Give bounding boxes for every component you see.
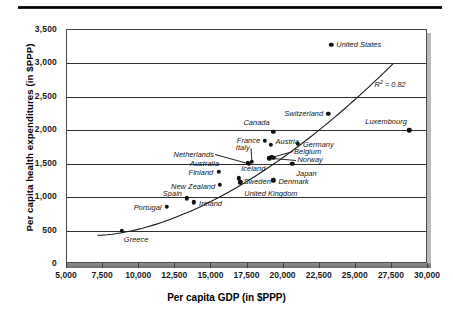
plot-area: GreecePortugalSpainIrelandFinlandNew Zea… [66,29,427,263]
data-point-label: Ireland [199,199,222,208]
data-point-label: Norway [297,155,322,164]
data-point-label: Netherlands [174,150,214,159]
data-point-label: Germany [303,140,334,149]
data-point-label: Iceland [241,164,265,173]
y-tick-label: 0 [52,258,57,268]
y-tick-label: 1,500 [35,158,57,168]
y-tick-label: 2,000 [35,124,57,134]
data-point-label: United States [336,40,381,49]
x-tick-label: 17,500 [234,270,260,280]
x-tick-label: 7,500 [91,270,112,280]
y-tick-label: 3,500 [35,24,57,34]
data-point-label: Luxembourg [365,117,407,126]
x-tick-label: 20,000 [270,270,296,280]
data-point-label: Austria [276,137,299,146]
data-point-label: Japan [296,169,316,178]
x-tick-mark [319,263,320,268]
x-tick-label: 30,000 [414,270,440,280]
x-tick-mark [210,263,211,268]
y-tick-label: 500 [42,225,57,235]
data-point-label: New Zealand [171,182,215,191]
x-tick-label: 25,000 [342,270,368,280]
x-tick-label: 5,000 [55,270,76,280]
figure-scatter-gdp-vs-health: Per capita health expenditures (in $PPP)… [0,0,453,321]
y-axis-tick-labels: 05001,0001,5002,0002,5003,0003,500 [0,29,62,263]
y-tick-label: 1,000 [35,191,57,201]
x-tick-label: 12,500 [161,270,187,280]
y-tick-label: 3,000 [35,57,57,67]
data-point-label: Australia [190,159,219,168]
x-tick-label: 27,500 [378,270,404,280]
y-tick-label: 2,500 [35,91,57,101]
x-tick-mark [174,263,175,268]
x-tick-label: 10,000 [125,270,151,280]
data-point-label: United Kingdom [244,189,297,198]
r-squared-annotation: R2 = 0.82 [375,79,406,89]
x-tick-mark [138,263,139,268]
data-point-label: Portugal [134,203,162,212]
x-tick-mark [391,263,392,268]
x-axis-title: Per capita GDP (in $PPP) [0,292,453,303]
x-tick-mark [247,263,248,268]
header-rule [18,6,442,9]
x-tick-mark [102,263,103,268]
data-point-label: Greece [124,235,149,244]
x-tick-mark [427,263,428,268]
x-tick-mark [66,263,67,268]
x-axis-bar [66,263,431,268]
data-point-label: Sweden [244,177,271,186]
x-tick-mark [355,263,356,268]
x-tick-mark [283,263,284,268]
x-tick-label: 15,000 [197,270,223,280]
data-point-label: France [237,136,260,145]
data-point-label: Finland [189,168,214,177]
x-tick-label: 22,500 [306,270,332,280]
data-point-label: Switzerland [284,109,323,118]
data-point-label: Denmark [278,177,308,186]
data-point-label: Canada [243,118,269,127]
